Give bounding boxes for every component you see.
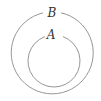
set-a-circle [28, 37, 80, 87]
set-b-label: B [47, 6, 57, 20]
set-a-label: A [46, 28, 56, 42]
venn-diagram: B A [0, 0, 101, 101]
set-b-circle [11, 13, 93, 94]
